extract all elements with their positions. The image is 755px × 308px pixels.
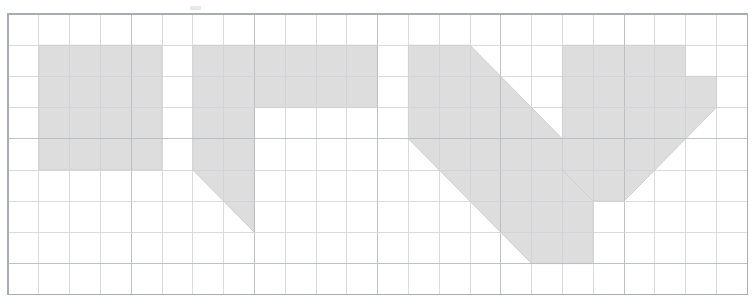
- glyph-vee: [562, 45, 716, 201]
- speck-layer: [190, 6, 201, 10]
- screenshot-root: [0, 0, 755, 308]
- speck-top: [190, 6, 201, 10]
- grid-paper-svg: [0, 0, 755, 308]
- drawing-canvas: [0, 0, 755, 308]
